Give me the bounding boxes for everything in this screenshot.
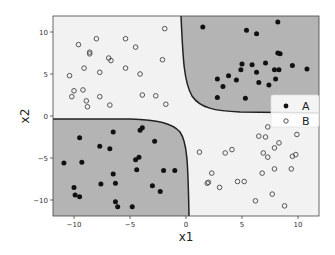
legend-marker-a-icon — [284, 104, 289, 109]
point-a — [140, 125, 145, 130]
point-a — [98, 182, 103, 187]
point-a — [238, 67, 243, 72]
x-tick-label: −5 — [125, 221, 135, 229]
decision-boundary-scatter-chart: −10−50510 −10−50510 x1 x2 A B — [0, 0, 335, 255]
y-tick-label: 0 — [44, 113, 48, 121]
point-a — [79, 160, 84, 165]
point-a — [254, 31, 259, 36]
point-a — [136, 155, 141, 160]
point-a — [250, 62, 255, 67]
point-a — [244, 28, 249, 33]
point-a — [172, 168, 177, 173]
point-a — [263, 61, 268, 66]
y-tick-label: 5 — [44, 71, 48, 79]
point-a — [273, 77, 278, 82]
point-a — [278, 51, 283, 56]
legend-box — [271, 95, 319, 127]
point-a — [240, 61, 245, 66]
legend-label-a: A — [302, 100, 310, 113]
point-a — [111, 129, 116, 134]
point-a — [158, 189, 163, 194]
point-a — [272, 67, 277, 72]
point-a — [130, 204, 135, 209]
point-a — [275, 19, 280, 24]
point-a — [304, 66, 309, 71]
point-a — [134, 167, 139, 172]
y-axis-ticks: −10−50510 — [33, 29, 53, 205]
point-a — [161, 168, 166, 173]
x-tick-label: 5 — [240, 221, 244, 229]
point-a — [152, 139, 157, 144]
point-a — [113, 199, 118, 204]
x-tick-label: 0 — [184, 221, 188, 229]
point-a — [72, 185, 77, 190]
legend-label-b: B — [302, 115, 310, 128]
point-a — [220, 84, 225, 89]
point-a — [97, 144, 102, 149]
point-a — [200, 24, 205, 29]
point-a — [61, 161, 66, 166]
point-a — [256, 80, 261, 85]
x-tick-label: 10 — [294, 221, 303, 229]
point-a — [234, 77, 239, 82]
point-a — [73, 192, 78, 197]
point-a — [77, 135, 82, 140]
y-tick-label: −10 — [33, 197, 48, 205]
legend: A B — [271, 95, 319, 128]
point-a — [266, 82, 271, 87]
y-axis-label: x2 — [18, 109, 32, 124]
point-a — [243, 96, 248, 101]
point-a — [254, 70, 259, 75]
point-a — [150, 183, 155, 188]
point-a — [276, 67, 281, 72]
x-axis-ticks: −10−50510 — [67, 216, 303, 229]
x-axis-label: x1 — [179, 230, 194, 244]
point-a — [290, 63, 295, 68]
point-a — [111, 171, 116, 176]
region-a-lower-left — [53, 119, 189, 216]
point-a — [215, 95, 220, 100]
point-a — [215, 77, 220, 82]
point-a — [77, 194, 82, 199]
y-tick-label: −5 — [38, 155, 48, 163]
x-tick-label: −10 — [67, 221, 82, 229]
point-a — [115, 204, 120, 209]
point-a — [107, 146, 112, 151]
point-a — [113, 181, 118, 186]
point-a — [226, 73, 231, 78]
y-tick-label: 10 — [39, 29, 48, 37]
